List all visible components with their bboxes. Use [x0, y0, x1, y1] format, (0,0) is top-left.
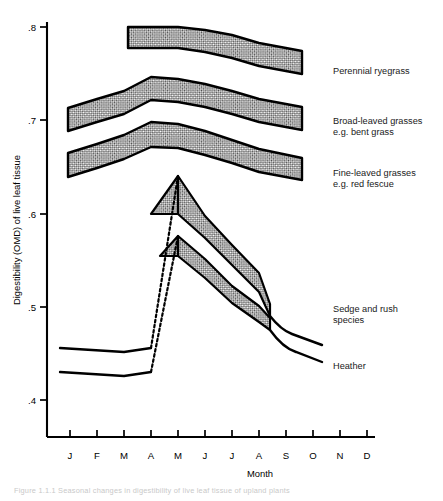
series-sedge-and-rush [151, 176, 322, 372]
x-tick-label: S [283, 450, 289, 461]
figure-caption: Figure 1.1.1 Seasonal changes in digesti… [14, 486, 434, 495]
y-tick-label: .4 [28, 395, 37, 406]
label-sedge-and-rush: Sedge and rush [333, 304, 398, 314]
chart-svg: .8 .7 .6 .5 .4 J F M A M J J A S O N D M… [0, 0, 443, 501]
x-tick-label: J [203, 450, 208, 461]
x-tick-labels: J F M A M J J A S O N D [68, 450, 371, 461]
x-tick-label: O [309, 450, 316, 461]
y-axis-title: Digestibility (OMD) of live leaf tissue [11, 155, 22, 305]
x-tick-label: J [68, 450, 73, 461]
series-annotations: Perennial ryegrass Broad-leaved grasses … [333, 66, 423, 371]
series-broad-leaved-grasses [68, 77, 302, 131]
series-fine-leaved-grasses [68, 122, 302, 180]
x-tick-label: N [337, 450, 344, 461]
figure-panel: .8 .7 .6 .5 .4 J F M A M J J A S O N D M… [0, 0, 443, 501]
y-tick-label: .5 [28, 302, 36, 313]
label-sedge-species: species [333, 315, 365, 325]
label-fine-leaved-grasses: Fine-leaved grasses [333, 168, 416, 178]
y-tick-labels: .8 .7 .6 .5 .4 [28, 22, 37, 406]
series-heather [60, 348, 151, 376]
series-perennial-ryegrass [128, 27, 302, 74]
x-tick-label: M [120, 450, 128, 461]
x-tick-label: D [364, 450, 371, 461]
y-tick-label: .8 [28, 22, 36, 33]
label-broad-leaved-example: e.g. bent grass [333, 127, 394, 137]
x-tick-label: A [148, 450, 155, 461]
label-heather: Heather [333, 361, 366, 371]
label-broad-leaved-grasses: Broad-leaved grasses [333, 116, 423, 126]
y-tick-label: .6 [28, 209, 36, 220]
x-tick-label: F [94, 450, 100, 461]
label-fine-leaved-example: e.g. red fescue [333, 179, 394, 189]
x-tick-label: J [230, 450, 235, 461]
x-axis-title: Month [247, 468, 273, 479]
x-tick-label: A [256, 450, 263, 461]
y-tick-label: .7 [28, 115, 36, 126]
label-perennial-ryegrass: Perennial ryegrass [333, 66, 410, 76]
x-tick-label: M [174, 450, 182, 461]
